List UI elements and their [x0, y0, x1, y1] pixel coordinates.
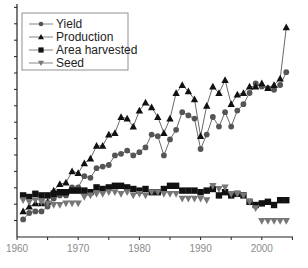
triangle-up-marker — [160, 129, 167, 136]
triangle-up-marker — [142, 99, 149, 106]
circle-marker — [222, 109, 228, 115]
triangle-up-marker — [221, 76, 228, 83]
triangle-down-marker — [172, 191, 179, 198]
triangle-down-marker — [283, 218, 290, 225]
circle-marker — [283, 69, 289, 75]
square-marker — [179, 187, 185, 193]
triangle-up-marker — [19, 208, 26, 215]
circle-marker — [88, 175, 94, 181]
circle-marker — [39, 22, 44, 27]
circle-marker — [137, 149, 143, 155]
legend-label: Area harvested — [56, 43, 137, 57]
legend-label: Production — [56, 30, 113, 44]
circle-marker — [241, 101, 247, 107]
triangle-down-marker — [19, 197, 26, 204]
triangle-up-marker — [166, 115, 173, 122]
square-marker — [130, 186, 136, 192]
circle-marker — [198, 146, 204, 152]
triangle-down-marker — [166, 191, 173, 198]
square-marker — [38, 192, 44, 198]
circle-marker — [124, 148, 130, 154]
square-marker — [44, 192, 50, 198]
square-marker — [277, 197, 283, 203]
circle-marker — [247, 90, 253, 96]
triangle-up-marker — [246, 83, 253, 90]
circle-marker — [32, 209, 38, 215]
triangle-down-marker — [75, 201, 82, 208]
square-marker — [283, 197, 289, 203]
circle-marker — [112, 153, 118, 159]
triangle-down-marker — [191, 196, 198, 203]
triangle-down-marker — [197, 196, 204, 203]
circle-marker — [118, 151, 124, 157]
triangle-down-marker — [215, 186, 222, 193]
triangle-up-marker — [179, 81, 186, 88]
triangle-up-marker — [117, 113, 124, 120]
square-marker — [51, 191, 57, 197]
triangle-up-marker — [258, 80, 265, 87]
legend: YieldProductionArea harvestedSeed — [22, 13, 137, 70]
triangle-down-marker — [50, 202, 57, 209]
triangle-up-marker — [111, 129, 118, 136]
triangle-down-marker — [105, 189, 112, 196]
triangle-up-marker — [228, 100, 235, 107]
x-tick-label: 1960 — [6, 243, 29, 254]
circle-marker — [26, 210, 32, 216]
square-marker — [173, 183, 179, 189]
triangle-down-marker — [136, 191, 143, 198]
square-marker — [167, 183, 173, 189]
square-marker — [185, 187, 191, 193]
square-marker — [259, 200, 265, 206]
square-marker — [204, 187, 210, 193]
triangle-down-marker — [99, 191, 106, 198]
triangle-down-marker — [179, 196, 186, 203]
triangle-up-marker — [62, 179, 69, 186]
circle-marker — [94, 165, 100, 171]
triangle-down-marker — [26, 199, 33, 206]
triangle-up-marker — [276, 75, 283, 82]
triangle-up-marker — [154, 113, 161, 120]
square-marker — [63, 189, 69, 195]
square-marker — [69, 187, 75, 193]
triangle-down-marker — [142, 193, 149, 200]
series-line — [23, 72, 286, 219]
circle-marker — [161, 153, 167, 159]
triangle-down-marker — [203, 197, 210, 204]
circle-marker — [173, 127, 179, 133]
circle-marker — [100, 164, 106, 170]
square-marker — [75, 187, 81, 193]
square-marker — [93, 184, 99, 190]
triangle-up-marker — [203, 102, 210, 109]
triangle-down-marker — [276, 218, 283, 225]
square-marker — [142, 186, 148, 192]
triangle-down-marker — [130, 193, 137, 200]
circle-marker — [106, 162, 112, 168]
legend-label: Yield — [56, 17, 82, 31]
circle-marker — [228, 124, 234, 130]
line-chart: 19601970198019902000 YieldProductionArea… — [0, 0, 308, 268]
circle-marker — [216, 124, 222, 130]
square-marker — [216, 192, 222, 198]
triangle-down-marker — [56, 202, 63, 209]
triangle-up-marker — [148, 104, 155, 111]
triangle-down-marker — [270, 218, 277, 225]
square-marker — [32, 191, 38, 197]
triangle-down-marker — [68, 201, 75, 208]
triangle-down-marker — [117, 191, 124, 198]
circle-marker — [192, 116, 198, 122]
square-marker — [57, 189, 63, 195]
triangle-up-marker — [93, 142, 100, 149]
circle-marker — [20, 217, 26, 223]
triangle-down-marker — [87, 193, 94, 200]
square-marker — [271, 202, 277, 208]
triangle-down-marker — [93, 191, 100, 198]
x-axis: 19601970198019902000 — [6, 237, 293, 254]
square-marker — [112, 183, 118, 189]
square-marker — [118, 183, 124, 189]
square-marker — [191, 187, 197, 193]
legend-label: Seed — [56, 56, 84, 70]
x-tick-label: 2000 — [251, 243, 274, 254]
square-marker — [197, 189, 203, 195]
triangle-down-marker — [62, 201, 69, 208]
triangle-down-marker — [81, 194, 88, 201]
